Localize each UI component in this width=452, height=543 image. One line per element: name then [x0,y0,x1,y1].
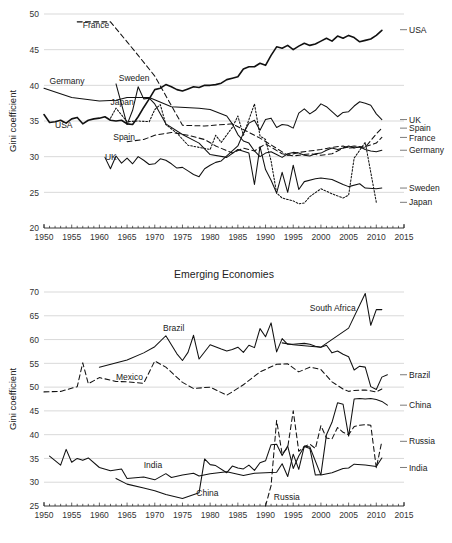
series-line-japan [110,104,376,204]
series-line-india [50,446,382,480]
inline-label-uk: UK [105,152,117,162]
x-tick-label: 1960 [90,232,109,242]
y-axis-title: Gini coefficient [7,368,18,430]
y-tick-label: 60 [30,335,40,345]
x-tick-label: 1960 [90,510,109,520]
x-tick-label: 1955 [62,510,81,520]
inline-label-sweden: Sweden [119,73,150,83]
y-tick-label: 30 [30,477,40,487]
x-tick-label: 1980 [201,232,220,242]
x-tick-label: 1985 [228,232,247,242]
x-tick-label: 2015 [395,510,414,520]
series-line-china [116,399,387,499]
x-tick-label: 2005 [339,510,358,520]
x-tick-label: 1990 [256,232,275,242]
inline-label-spain: Spain [113,132,135,142]
x-tick-label: 2005 [339,232,358,242]
right-label-usa: USA [409,25,427,35]
right-label-france: France [409,133,436,143]
chart-svg-bottom: Emerging Economies2530354045505560657019… [0,262,452,543]
y-tick-label: 35 [30,116,40,126]
series-line-mexico [44,361,382,395]
chart-panel-emerging-economies: Emerging Economies2530354045505560657019… [0,262,452,543]
inline-label-russia: Russia [274,492,300,502]
chart-panel-advanced-economies: 2025303540455019501955196019651970197519… [0,0,452,271]
inline-label-brazil: Brazil [163,323,184,333]
right-label-germany: Germany [409,145,445,155]
x-tick-label: 1970 [145,232,164,242]
right-label-brazil: Brazil [409,370,430,380]
x-tick-label: 2015 [395,232,414,242]
right-label-india: India [409,463,428,473]
x-tick-label: 1975 [173,510,192,520]
inline-label-usa: USA [55,120,73,130]
inline-label-japan: Japan [110,97,133,107]
y-tick-label: 50 [30,382,40,392]
inline-label-mexico: Mexico [116,372,143,382]
x-tick-label: 1950 [35,510,54,520]
y-tick-label: 40 [30,81,40,91]
y-tick-label: 40 [30,430,40,440]
y-tick-label: 45 [30,45,40,55]
x-tick-label: 1950 [35,232,54,242]
y-tick-label: 35 [30,454,40,464]
inline-label-germany: Germany [50,76,86,86]
x-tick-label: 1990 [256,510,275,520]
right-label-russia: Russia [409,436,435,446]
y-tick-label: 25 [30,188,40,198]
chart-svg-top: 2025303540455019501955196019651970197519… [0,0,452,271]
series-line-uk [105,102,382,177]
x-tick-label: 1975 [173,232,192,242]
x-tick-label: 1965 [118,232,137,242]
x-tick-label: 1985 [228,510,247,520]
y-tick-label: 65 [30,311,40,321]
y-tick-label: 45 [30,406,40,416]
right-label-sweden: Sweden [409,183,440,193]
x-tick-label: 1995 [284,232,303,242]
x-tick-label: 1955 [62,232,81,242]
series-line-south-africa [282,293,382,347]
y-tick-label: 30 [30,152,40,162]
x-tick-label: 1970 [145,510,164,520]
x-tick-label: 1965 [118,510,137,520]
inline-label-france: France [83,20,110,30]
inline-label-china: China [196,488,218,498]
x-tick-label: 1980 [201,510,220,520]
y-axis-title: Gini coefficient [7,90,18,152]
series-line-germany [44,88,382,157]
x-tick-label: 1995 [284,510,303,520]
x-tick-label: 2010 [367,232,386,242]
right-label-china: China [409,400,431,410]
inline-label-india: India [144,460,163,470]
figure-root: 2025303540455019501955196019651970197519… [0,0,452,543]
y-tick-label: 50 [30,9,40,19]
y-tick-label: 55 [30,359,40,369]
x-tick-label: 2000 [311,232,330,242]
series-line-spain [127,128,382,156]
right-label-japan: Japan [409,197,432,207]
y-tick-label: 70 [30,287,40,297]
inline-label-south-africa: South Africa [310,303,356,313]
chart-title: Emerging Economies [174,268,274,280]
x-tick-label: 2010 [367,510,386,520]
x-tick-label: 2000 [311,510,330,520]
